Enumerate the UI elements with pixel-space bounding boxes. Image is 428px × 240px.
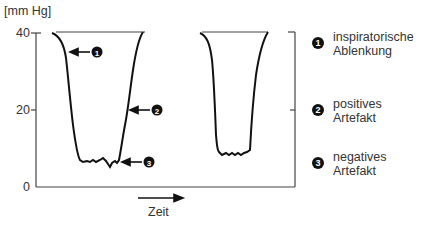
svg-text:3: 3 bbox=[147, 159, 152, 168]
legend-2-line2: Artefakt bbox=[333, 111, 382, 125]
legend-1-line2: Ablenkung bbox=[333, 44, 414, 58]
legend-1-line1: inspiratorische bbox=[333, 30, 414, 44]
annotation-arrows bbox=[70, 49, 183, 202]
marker-1-icon: 1 bbox=[312, 37, 324, 49]
x-axis-label: Zeit bbox=[148, 205, 169, 219]
svg-text:2: 2 bbox=[155, 107, 160, 116]
marker-3-icon: 3 bbox=[312, 157, 324, 169]
marker-2-icon: 2 bbox=[312, 104, 324, 116]
pressure-curve-2 bbox=[200, 32, 268, 155]
legend-3-line2: Artefakt bbox=[333, 164, 387, 178]
legend-2-line1: positives bbox=[333, 97, 382, 111]
right-axis bbox=[288, 32, 295, 187]
legend-3-line1: negatives bbox=[333, 150, 387, 164]
svg-text:1: 1 bbox=[95, 49, 100, 58]
